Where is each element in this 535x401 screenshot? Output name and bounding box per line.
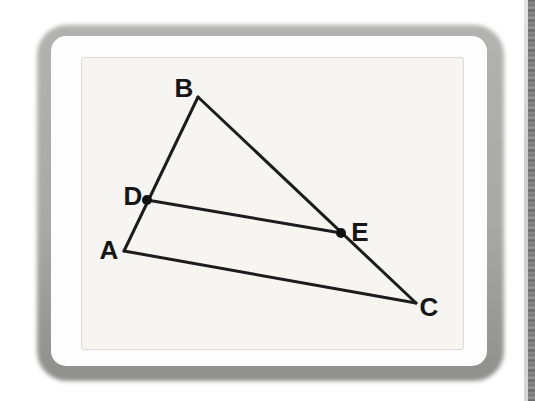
vertex-label-e: E	[351, 219, 368, 245]
photo-frame	[37, 25, 504, 381]
vertex-label-b: B	[175, 75, 194, 101]
vertex-label-d: D	[124, 183, 143, 209]
vertex-label-c: C	[420, 294, 439, 320]
vertex-label-a: A	[100, 237, 119, 263]
book-page-edge-dark-strip	[528, 0, 535, 401]
scanned-textbook-figure: A B C D E	[0, 0, 535, 401]
book-page-edge	[524, 0, 535, 401]
